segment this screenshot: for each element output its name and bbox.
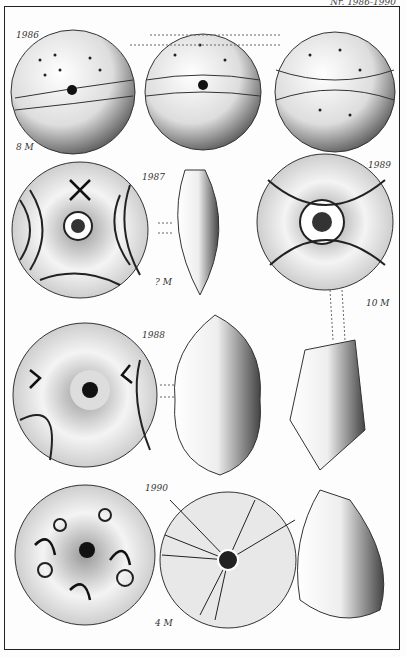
plate-page: Nr. 1986-1990: [0, 0, 406, 657]
fig-label-1988: 1988: [142, 330, 165, 340]
fig-1987: [12, 154, 393, 340]
fig-label-1989: 1989: [368, 160, 391, 170]
scale-label-1989: 10 M: [366, 298, 390, 308]
scale-label-1990: 4 M: [155, 618, 173, 628]
scale-label-1987: ? M: [155, 277, 172, 287]
fig-1988: [13, 315, 365, 475]
fig-1990: [15, 485, 384, 628]
scale-label-1986: 8 M: [16, 142, 34, 152]
illustration: [0, 0, 406, 657]
fig-label-1986: 1986: [16, 30, 39, 40]
fig-1986: [11, 30, 395, 154]
fig-label-1987: 1987: [142, 172, 165, 182]
fig-label-1990: 1990: [145, 483, 168, 493]
